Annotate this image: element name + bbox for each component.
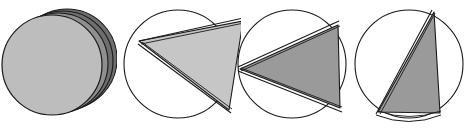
panel-1-stacked-disks	[0, 0, 117, 133]
panel-4-graphic	[349, 0, 469, 133]
disk-fold-sequence-figure	[0, 0, 469, 133]
panel-3-graphic	[233, 0, 357, 133]
panel-1-graphic	[0, 0, 117, 133]
panel-2-wedge-open-wide	[117, 0, 234, 133]
panel-4-wedge-nearly-closed	[349, 0, 466, 133]
panel-3-wedge-open-medium	[233, 0, 350, 133]
front-disk	[2, 15, 102, 115]
panel-2-graphic	[117, 0, 241, 133]
